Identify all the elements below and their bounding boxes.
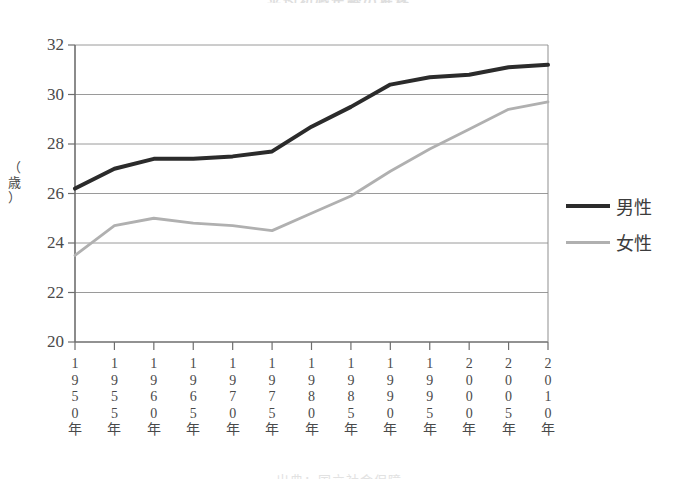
x-axis-tick-label: 2000年	[459, 356, 479, 439]
legend-label-male: 男性	[616, 193, 652, 219]
x-axis-tick-label-char: 0	[459, 389, 479, 406]
x-axis-tick-label-char: 年	[262, 422, 282, 439]
x-axis-tick-label-char: 年	[341, 422, 361, 439]
x-axis-tick-label-char: 1	[538, 389, 558, 406]
y-axis-tick-label: 28	[30, 135, 64, 152]
x-axis-tick-label-char: 1	[302, 356, 322, 373]
x-axis-tick-label-char: 年	[420, 422, 440, 439]
x-axis-tick-label-char: 0	[499, 389, 519, 406]
series-lines	[75, 65, 548, 256]
x-axis-tick-label-char: 5	[341, 406, 361, 423]
x-axis-tick-label: 1995年	[420, 356, 440, 439]
x-axis-tick-label-char: 1	[341, 356, 361, 373]
x-axis-tick-label-char: 5	[262, 406, 282, 423]
x-axis-tick-label-char: 1	[420, 356, 440, 373]
x-axis-tick-label-char: 0	[538, 406, 558, 423]
x-axis-tick-label-char: 9	[341, 373, 361, 390]
legend-swatch-female-icon	[566, 241, 610, 244]
x-axis-tick-label-char: 0	[65, 406, 85, 423]
x-axis-tick-label-char: 0	[380, 406, 400, 423]
x-axis-tick-label: 1980年	[302, 356, 322, 439]
x-axis-tick-label-char: 年	[499, 422, 519, 439]
x-axis-tick-label-char: 9	[65, 373, 85, 390]
x-axis-tick-label-char: 8	[341, 389, 361, 406]
x-axis-tick-label-char: 9	[302, 373, 322, 390]
x-axis-tick-label-char: 年	[104, 422, 124, 439]
x-axis-tick-label: 1950年	[65, 356, 85, 439]
x-axis-tick-label: 1960年	[144, 356, 164, 439]
x-axis-tick-label-char: 5	[499, 406, 519, 423]
x-axis-tick-label: 2010年	[538, 356, 558, 439]
x-axis-tick-label-char: 0	[459, 406, 479, 423]
x-axis-tick-label-char: 0	[302, 406, 322, 423]
x-axis-tick-label-char: 年	[183, 422, 203, 439]
y-axis-tick-label: 22	[30, 284, 64, 301]
y-axis-tick-label: 24	[30, 234, 64, 251]
x-axis-tick-label-char: 1	[380, 356, 400, 373]
x-axis-tick-label-char: 0	[538, 373, 558, 390]
y-axis-tick-label: 30	[30, 86, 64, 103]
x-axis-tick-label-char: 2	[459, 356, 479, 373]
x-axis-tick-label: 2005年	[499, 356, 519, 439]
x-axis-tick-label-char: 6	[183, 389, 203, 406]
x-axis-tick-label-char: 0	[459, 373, 479, 390]
x-axis-tick-label: 1985年	[341, 356, 361, 439]
gridlines	[75, 45, 548, 342]
x-axis-tick-label-char: 1	[144, 356, 164, 373]
x-axis-tick-label-char: 年	[380, 422, 400, 439]
chart-legend: 男性 女性	[566, 188, 676, 260]
x-axis-tick-label-char: 9	[420, 389, 440, 406]
x-axis-tick-label-char: 年	[459, 422, 479, 439]
legend-label-female: 女性	[616, 229, 652, 255]
x-axis-tick-label-char: 9	[420, 373, 440, 390]
legend-item-male: 男性	[566, 188, 676, 224]
y-axis-tick-label: 32	[30, 36, 64, 53]
x-axis-tick-label-char: 9	[380, 373, 400, 390]
chart-caption: 出典：国立社会保障	[0, 470, 678, 479]
legend-swatch-male-icon	[566, 204, 610, 208]
x-axis-tick-label-char: 9	[144, 373, 164, 390]
x-axis-tick-label-char: 2	[499, 356, 519, 373]
x-axis-tick-label-char: 0	[144, 406, 164, 423]
x-axis-tick-label-char: 1	[223, 356, 243, 373]
x-axis-tick-label-char: 年	[144, 422, 164, 439]
x-axis-tick-label-char: 9	[380, 389, 400, 406]
x-axis-tick-label-char: 5	[183, 406, 203, 423]
x-axis-tick-label-char: 9	[183, 373, 203, 390]
x-axis-tick-label-char: 5	[104, 406, 124, 423]
x-axis-tick-label-char: 9	[262, 373, 282, 390]
y-axis-tick-label: 26	[30, 185, 64, 202]
x-axis-tick-label-char: 5	[104, 389, 124, 406]
x-axis-tick-label-char: 6	[144, 389, 164, 406]
x-axis-tick-label-char: 年	[65, 422, 85, 439]
x-axis-tick-label-char: 0	[499, 373, 519, 390]
y-axis-ticks	[68, 45, 75, 342]
x-axis-tick-label-char: 1	[183, 356, 203, 373]
x-axis-tick-label-char: 1	[65, 356, 85, 373]
x-axis-tick-label-char: 年	[223, 422, 243, 439]
x-axis-tick-label-char: 9	[104, 373, 124, 390]
x-axis-tick-label-char: 7	[262, 389, 282, 406]
x-axis-tick-label-char: 5	[420, 406, 440, 423]
y-axis-tick-label: 20	[30, 333, 64, 350]
legend-item-female: 女性	[566, 224, 676, 260]
x-axis-tick-label-char: 7	[223, 389, 243, 406]
x-axis-tick-label-char: 2	[538, 356, 558, 373]
x-axis-tick-label-char: 年	[302, 422, 322, 439]
x-axis-tick-label: 1975年	[262, 356, 282, 439]
chart-figure: 平均初婚年齢の推移 （ 歳 ） 32302826242220 1950年1955…	[0, 0, 678, 479]
x-axis-tick-label: 1970年	[223, 356, 243, 439]
x-axis-tick-label-char: 1	[262, 356, 282, 373]
x-axis-tick-label-char: 8	[302, 389, 322, 406]
x-axis-tick-label: 1990年	[380, 356, 400, 439]
x-axis-tick-label-char: 5	[65, 389, 85, 406]
x-axis-tick-label-char: 年	[538, 422, 558, 439]
x-axis-tick-label-char: 0	[223, 406, 243, 423]
x-axis-tick-label-char: 1	[104, 356, 124, 373]
x-axis-tick-label: 1965年	[183, 356, 203, 439]
x-axis-tick-label: 1955年	[104, 356, 124, 439]
x-axis-ticks	[75, 342, 548, 350]
x-axis-tick-label-char: 9	[223, 373, 243, 390]
